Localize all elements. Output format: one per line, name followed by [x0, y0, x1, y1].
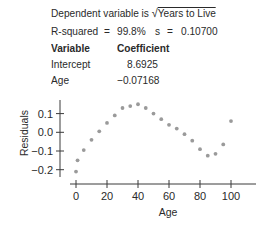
data-point: [167, 123, 171, 127]
data-point: [198, 147, 202, 151]
residual-scatter-plot: 0.10.0−0.1−0.2020406080100AgeResiduals: [0, 0, 265, 227]
data-point: [136, 102, 140, 106]
data-point: [206, 154, 210, 158]
x-tick-label: 20: [101, 190, 113, 202]
data-point: [175, 127, 179, 131]
data-point: [90, 138, 94, 142]
data-point: [113, 114, 117, 118]
data-point: [183, 132, 187, 136]
x-tick-label: 0: [73, 190, 79, 202]
data-point: [74, 170, 78, 174]
y-axis-title: Residuals: [18, 110, 30, 156]
x-tick-label: 40: [132, 190, 144, 202]
y-tick-label: 0.1: [38, 108, 53, 120]
data-point: [214, 152, 218, 156]
y-tick-label: −0.1: [31, 145, 53, 157]
data-point: [121, 106, 125, 110]
x-tick-label: 100: [222, 190, 240, 202]
data-point: [190, 139, 194, 143]
y-tick-label: −0.2: [31, 164, 53, 176]
data-point: [144, 106, 148, 110]
x-axis-title: Age: [159, 206, 178, 218]
x-tick-label: 80: [194, 190, 206, 202]
data-point: [221, 143, 225, 147]
data-point: [159, 117, 163, 121]
data-point: [105, 121, 109, 125]
data-point: [152, 112, 156, 116]
data-point: [97, 129, 101, 133]
data-point: [128, 104, 132, 108]
data-point: [82, 148, 86, 152]
data-point: [229, 119, 233, 123]
x-tick-label: 60: [163, 190, 175, 202]
y-tick-label: 0.0: [38, 126, 53, 138]
data-point: [76, 158, 80, 162]
